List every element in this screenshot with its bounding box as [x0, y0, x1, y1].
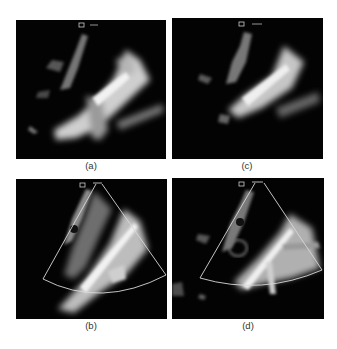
- panel-label-a: (a): [61, 160, 121, 172]
- ultrasound-panel-a: [16, 20, 166, 159]
- panel-label-d: (d): [218, 320, 278, 332]
- ultrasound-panel-d: [172, 178, 324, 319]
- ultrasound-panel-b: [16, 179, 167, 319]
- panel-label-c: (c): [217, 160, 277, 172]
- panel-label-b: (b): [61, 320, 121, 332]
- ultrasound-image-a: [16, 20, 166, 159]
- ultrasound-image-d: [172, 178, 324, 319]
- ultrasound-panel-c: [172, 18, 323, 159]
- ultrasound-image-c: [172, 18, 323, 159]
- ultrasound-image-b: [16, 179, 167, 319]
